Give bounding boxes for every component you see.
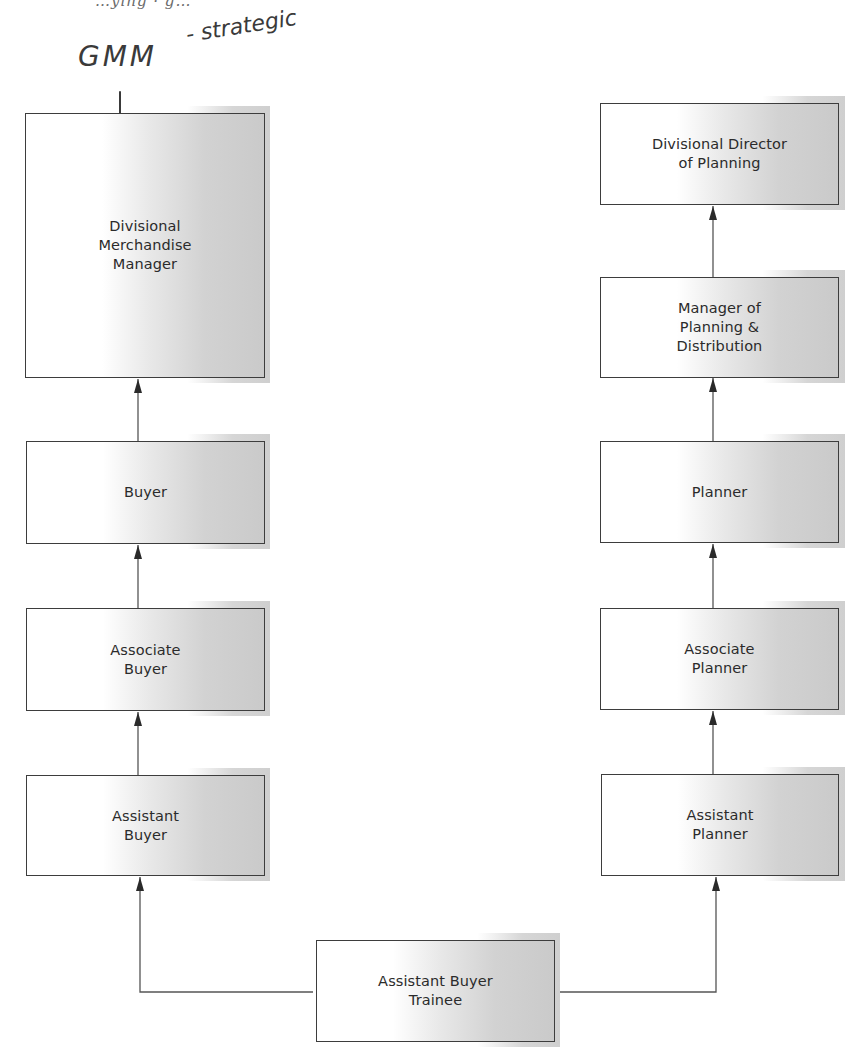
box-label: Assistant Planner — [687, 806, 754, 844]
box-buyer: Buyer — [26, 441, 265, 544]
box-label: Associate Buyer — [110, 641, 180, 679]
box-manager-of-planning-distribution: Manager of Planning & Distribution — [600, 277, 839, 378]
arrow-trainee-to-asst-buyer — [140, 877, 313, 992]
box-label: Assistant Buyer — [112, 807, 179, 845]
box-assistant-buyer: Assistant Buyer — [26, 775, 265, 876]
box-label: Associate Planner — [684, 640, 754, 678]
box-label: Divisional Merchandise Manager — [98, 217, 191, 274]
box-associate-planner: Associate Planner — [600, 608, 839, 710]
box-label: Divisional Director of Planning — [652, 135, 787, 173]
career-path-diagram: …ying · g… GMM - strategic — [0, 0, 858, 1059]
arrow-trainee-to-asst-planner — [548, 877, 716, 992]
box-divisional-director-of-planning: Divisional Director of Planning — [600, 103, 839, 205]
box-label: Assistant Buyer Trainee — [378, 972, 493, 1010]
box-assistant-planner: Assistant Planner — [601, 774, 839, 876]
box-assistant-buyer-trainee: Assistant Buyer Trainee — [316, 940, 555, 1042]
box-divisional-merchandise-manager: Divisional Merchandise Manager — [25, 113, 265, 378]
box-label: Manager of Planning & Distribution — [677, 299, 763, 356]
box-planner: Planner — [600, 441, 839, 543]
box-label: Buyer — [124, 483, 167, 502]
box-associate-buyer: Associate Buyer — [26, 608, 265, 711]
box-label: Planner — [692, 483, 748, 502]
